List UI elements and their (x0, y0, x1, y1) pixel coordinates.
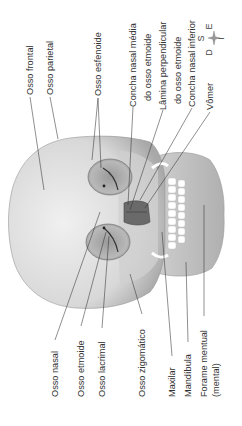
label-forame-mentual-l1: Forame mentual (199, 330, 209, 397)
label-lamina-perpendicular-l1: Lâmina perpendicular (158, 22, 168, 110)
label-osso-etmoide: Osso etmoide (76, 340, 86, 397)
label-osso-esfenoide: Osso esfenoide (93, 32, 103, 96)
right-orbit (88, 159, 132, 195)
compass-s: S (197, 35, 206, 41)
label-vomer: Vômer (205, 83, 215, 110)
label-lamina-perpendicular-l2: do osso etmoide (173, 37, 183, 104)
label-concha-nasal-inferior: Concha nasal inferior (187, 20, 197, 107)
label-osso-nasal: Osso nasal (50, 351, 60, 397)
left-orbit (86, 224, 130, 260)
label-concha-nasal-media-l1: Concha nasal média (128, 23, 138, 107)
label-osso-zigomatico: Osso zigomático (137, 329, 147, 397)
orientation-compass: D E S I (204, 18, 240, 60)
compass-star-icon (207, 30, 221, 46)
label-mandibula: Mandíbula (183, 354, 193, 397)
label-osso-frontal: Osso frontal (25, 45, 35, 95)
compass-e: E (205, 23, 214, 29)
anatomy-diagram: Osso frontal Osso parietal Osso esfenoid… (0, 0, 242, 426)
compass-d: D (205, 49, 214, 56)
label-maxilar: Maxilar (167, 367, 177, 397)
label-osso-lacrimal: Osso lacrimal (97, 341, 107, 397)
label-forame-mentual-l2: (mental) (211, 363, 221, 397)
label-osso-parietal: Osso parietal (45, 41, 55, 95)
label-concha-nasal-media-l2: do osso etmoide (143, 34, 153, 101)
